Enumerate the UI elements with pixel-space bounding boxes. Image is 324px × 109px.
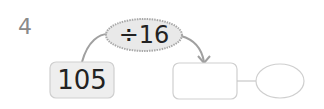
connector-in — [82, 34, 108, 62]
flow-diagram — [0, 0, 324, 109]
start-value-label: 105 — [50, 62, 114, 98]
operation-label: ÷16 — [106, 18, 182, 52]
quotient-answer-box[interactable] — [173, 63, 237, 99]
remainder-answer-circle[interactable] — [256, 64, 304, 98]
